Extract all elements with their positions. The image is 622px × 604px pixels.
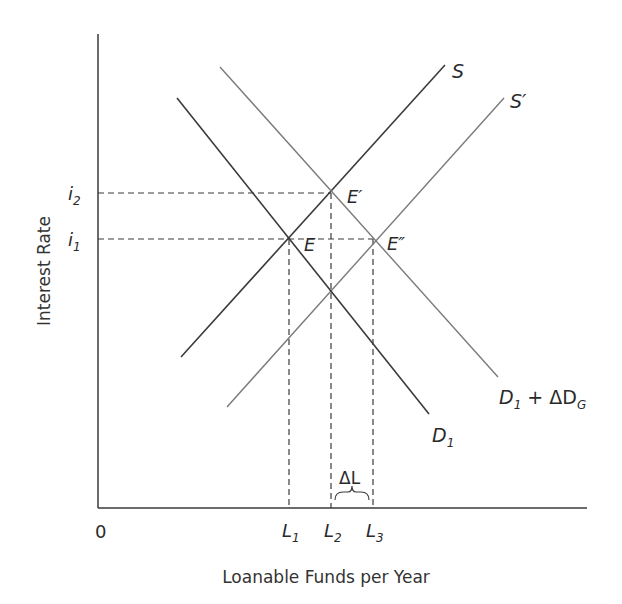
dashed-guides: [98, 193, 373, 508]
loanable-funds-diagram: S S′ E E′ E″ D1 D1 + ΔDG i2 i1 0 L1 L2 L…: [0, 0, 622, 604]
tick-l1: L1: [282, 520, 300, 545]
tick-l2: L2: [324, 520, 342, 545]
x-axis-title: Loanable Funds per Year: [222, 567, 430, 587]
delta-l-brace: [335, 486, 369, 500]
origin-label: 0: [95, 521, 106, 542]
label-s: S: [452, 60, 464, 82]
tick-i2: i2: [68, 183, 81, 208]
label-e-prime: E′: [347, 186, 362, 207]
supply-curve-s: [181, 65, 445, 357]
demand-curve-d1: [177, 98, 429, 414]
label-delta-l: ΔL: [339, 468, 361, 488]
supply-curve-s-prime: [227, 98, 504, 407]
y-axis-title: Interest Rate: [34, 216, 54, 326]
tick-i1: i1: [68, 229, 81, 254]
tick-l3: L3: [366, 520, 384, 545]
label-s-prime: S′: [510, 90, 527, 112]
label-d1: D1: [432, 424, 454, 450]
label-e: E: [304, 234, 316, 255]
demand-curve-d1-plus-dg: [220, 67, 498, 377]
label-e-double-prime: E″: [387, 233, 405, 254]
label-d1-plus-dg: D1 + ΔDG: [499, 386, 586, 412]
